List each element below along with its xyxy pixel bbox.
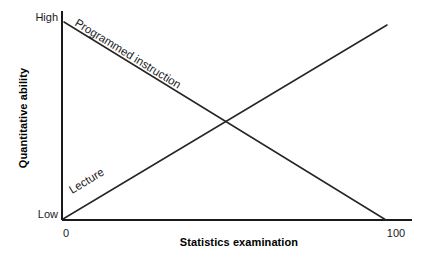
y-tick-label-low: Low <box>38 208 58 220</box>
y-axis-title: Quantitative ability <box>17 67 29 168</box>
x-axis-title: Statistics examination <box>180 236 299 248</box>
x-tick-label-min: 0 <box>63 227 69 239</box>
chart-figure: High Low 0 100 Quantitative ability Stat… <box>0 0 429 262</box>
series-label-lecture: Lecture <box>67 166 106 196</box>
x-tick-label-max: 100 <box>387 227 405 239</box>
y-tick-label-high: High <box>35 11 58 23</box>
series-label-programmed-instruction: Programmed instruction <box>73 16 183 90</box>
line-chart: High Low 0 100 Quantitative ability Stat… <box>0 0 429 262</box>
